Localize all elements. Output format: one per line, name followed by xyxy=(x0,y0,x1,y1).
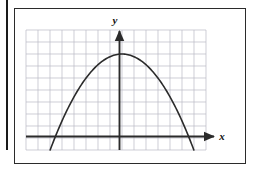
plot-area: y x xyxy=(0,0,262,177)
figure-page: y x xyxy=(0,0,262,177)
grid-lines xyxy=(26,30,206,150)
y-axis-label: y xyxy=(111,14,118,26)
x-axis-label: x xyxy=(218,130,225,142)
coordinate-graph: y x xyxy=(0,0,262,177)
